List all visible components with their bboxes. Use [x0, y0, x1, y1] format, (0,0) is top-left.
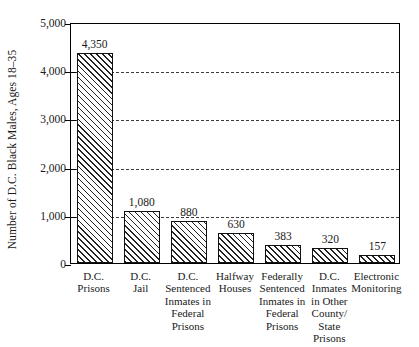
bar-group[interactable]: 157 [359, 22, 395, 263]
x-axis-category-label-line: Monitoring [348, 282, 405, 294]
bar-value-label: 880 [157, 206, 221, 219]
bar[interactable] [359, 255, 395, 263]
y-axis-tick-labels: 5,0004,0003,0002,0001,0000 [20, 0, 66, 347]
bar-chart: Number of D.C. Black Males, Ages 18–35 5… [0, 0, 419, 347]
bar[interactable] [265, 245, 301, 263]
y-axis-tick-label: 3,000 [20, 113, 66, 125]
bars: 4,3501,080880630383320157 [71, 24, 399, 263]
bar-group[interactable]: 320 [312, 22, 348, 263]
x-axis-category-label-line: Inmates in [159, 295, 216, 307]
bar[interactable] [77, 53, 113, 263]
x-axis-labels: D.C.PrisonsD.C.JailD.C.SentencedInmates … [70, 270, 400, 347]
x-axis-category-label-line: State [301, 320, 358, 332]
bar[interactable] [171, 221, 207, 263]
x-axis-category-label-line: Prisons [159, 320, 216, 332]
x-axis-category-label-line: Electronic [348, 270, 405, 282]
bar[interactable] [124, 211, 160, 263]
y-axis-tick-label: 5,000 [20, 17, 66, 29]
plot-area: 4,3501,080880630383320157 [70, 23, 400, 264]
y-axis-tick-label: 4,000 [20, 65, 66, 77]
bar[interactable] [218, 233, 254, 263]
y-axis-title: Number of D.C. Black Males, Ages 18–35 [4, 16, 20, 283]
bar-group[interactable]: 880 [171, 22, 207, 263]
x-axis-category-label: ElectronicMonitoring [348, 270, 405, 295]
bar-group[interactable]: 1,080 [124, 22, 160, 263]
bar-value-label: 4,350 [63, 38, 127, 51]
bar[interactable] [312, 248, 348, 263]
y-axis-tick-label: 2,000 [20, 162, 66, 174]
x-axis-category-label-line: Prisons [301, 332, 358, 344]
y-axis-tick-label: 0 [20, 258, 66, 270]
x-axis-category-label-line: in Other [301, 295, 358, 307]
bar-group[interactable]: 383 [265, 22, 301, 263]
y-axis-tick-label: 1,000 [20, 210, 66, 222]
x-axis-category-label-line: Federal [159, 307, 216, 319]
bar-group[interactable]: 4,350 [77, 22, 113, 263]
bar-group[interactable]: 630 [218, 22, 254, 263]
bar-value-label: 157 [345, 240, 409, 253]
x-axis-category-label-line: County/ [301, 307, 358, 319]
y-axis-tick-mark [65, 265, 71, 266]
